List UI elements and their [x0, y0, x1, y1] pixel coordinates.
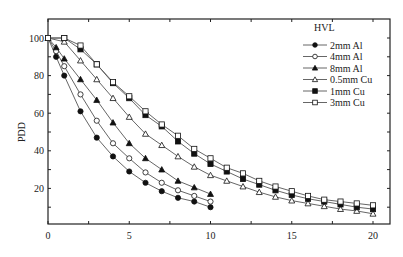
legend-label: 2mm Al: [330, 40, 363, 51]
circle-marker: [62, 73, 67, 78]
x-tick-label: 5: [127, 230, 132, 241]
chart-canvas: 0510152020406080100 HVL 2mm Al4mm Al8mm …: [0, 0, 403, 257]
legend: HVL 2mm Al4mm Al8mm Al0.5mm Cu1mm Cu3mm …: [303, 22, 372, 108]
legend-label: 3mm Cu: [330, 97, 365, 108]
circle-marker: [127, 156, 132, 161]
square-marker: [175, 133, 180, 138]
data-series: [45, 35, 376, 216]
square-marker: [208, 156, 213, 161]
x-tick-label: 15: [287, 230, 297, 241]
square-marker: [354, 201, 359, 206]
square-marker: [159, 122, 164, 127]
x-tick-label: 0: [46, 230, 51, 241]
square-marker: [257, 178, 262, 183]
y-tick-label: 80: [34, 70, 44, 81]
legend-item: 3mm Cu: [303, 97, 365, 108]
square-marker: [322, 197, 327, 202]
legend-title: HVL: [314, 22, 335, 33]
square-marker: [313, 89, 318, 94]
square-marker: [45, 35, 50, 40]
circle-marker: [159, 189, 164, 194]
square-marker: [240, 176, 245, 181]
circle-marker: [143, 170, 148, 175]
circle-marker: [159, 180, 164, 185]
legend-label: 8mm Al: [330, 63, 363, 74]
x-tick-label: 20: [368, 230, 378, 241]
triangle-marker: [159, 167, 165, 172]
square-marker: [338, 199, 343, 204]
y-axis-label: PDD: [16, 122, 27, 142]
circle-marker: [78, 109, 83, 114]
y-tick-label: 20: [34, 183, 44, 194]
legend-label: 1mm Cu: [330, 86, 365, 97]
circle-marker: [175, 188, 180, 193]
circle-marker: [110, 154, 115, 159]
x-tick-label: 10: [206, 230, 216, 241]
y-tick-label: 60: [34, 108, 44, 119]
triangle-marker: [208, 172, 214, 177]
legend-item: 2mm Al: [303, 40, 363, 51]
circle-marker: [94, 118, 99, 123]
legend-label: 0.5mm Cu: [330, 74, 372, 85]
legend-item: 4mm Al: [303, 51, 363, 62]
triangle-marker: [208, 191, 214, 196]
legend-label: 4mm Al: [330, 51, 363, 62]
square-marker: [273, 184, 278, 189]
square-marker: [224, 165, 229, 170]
circle-marker: [62, 64, 67, 69]
square-marker: [143, 109, 148, 114]
square-marker: [175, 139, 180, 144]
circle-marker: [94, 135, 99, 140]
square-marker: [313, 100, 318, 105]
circle-marker: [313, 43, 318, 48]
square-marker: [62, 35, 67, 40]
triangle-marker: [175, 178, 181, 183]
square-marker: [127, 94, 132, 99]
circle-marker: [208, 199, 213, 204]
square-marker: [78, 43, 83, 48]
triangle-marker: [159, 142, 165, 147]
series-line: [48, 38, 211, 202]
legend-item: 1mm Cu: [303, 86, 365, 97]
triangle-marker: [191, 184, 197, 189]
circle-marker: [175, 195, 180, 200]
square-marker: [305, 193, 310, 198]
circle-marker: [143, 180, 148, 185]
square-marker: [240, 171, 245, 176]
y-tick-label: 100: [29, 33, 44, 44]
circle-marker: [208, 205, 213, 210]
square-marker: [94, 62, 99, 67]
series-2mm-al: [45, 35, 213, 209]
circle-marker: [127, 169, 132, 174]
square-marker: [289, 189, 294, 194]
legend-item: 8mm Al: [303, 63, 363, 74]
triangle-marker: [191, 164, 197, 169]
circle-marker: [78, 92, 83, 97]
pdd-chart: 0510152020406080100 HVL 2mm Al4mm Al8mm …: [0, 0, 403, 257]
square-marker: [110, 80, 115, 85]
legend-item: 0.5mm Cu: [303, 74, 372, 85]
circle-marker: [110, 141, 115, 146]
series-4mm-al: [45, 35, 213, 204]
square-marker: [208, 161, 213, 166]
circle-marker: [192, 193, 197, 198]
y-tick-label: 40: [34, 145, 44, 156]
circle-marker: [192, 199, 197, 204]
circle-marker: [313, 54, 318, 59]
series-line: [48, 38, 211, 207]
square-marker: [370, 203, 375, 208]
square-marker: [192, 146, 197, 151]
triangle-marker: [175, 153, 181, 158]
